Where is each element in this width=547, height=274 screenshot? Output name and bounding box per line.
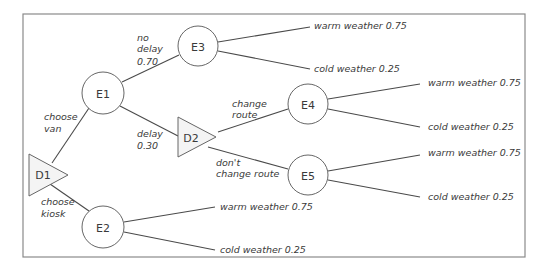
outcome-e4-cold: cold weather 0.25 xyxy=(428,121,514,132)
edge-label-line: change route xyxy=(216,168,279,179)
node-label: E2 xyxy=(96,222,110,235)
node-label: E3 xyxy=(191,41,205,54)
outcome-e4-warm: warm weather 0.75 xyxy=(428,77,521,88)
edge-label-line: van xyxy=(44,123,61,134)
edge-label-line: no xyxy=(137,32,149,43)
outcome-e2-warm: warm weather 0.75 xyxy=(220,201,313,212)
outcome-e3-warm: warm weather 0.75 xyxy=(314,20,407,31)
chance-node-e4: E4 xyxy=(288,84,328,124)
node-label: D2 xyxy=(183,132,198,145)
edge-label-line: don't xyxy=(216,157,241,168)
chance-node-e2: E2 xyxy=(82,206,124,248)
chance-node-e5: E5 xyxy=(288,155,328,195)
chance-node-e3: E3 xyxy=(178,26,218,66)
outcome-e3-cold: cold weather 0.25 xyxy=(314,63,400,74)
edge-label-line: route xyxy=(232,109,257,120)
edge-label-line: kiosk xyxy=(41,208,66,219)
edge-label-line: delay xyxy=(137,128,163,139)
chance-node-e1: E1 xyxy=(82,72,124,114)
node-label: E5 xyxy=(301,170,315,183)
outcome-e2-cold: cold weather 0.25 xyxy=(220,244,306,255)
edge-label-line: 0.30 xyxy=(137,140,158,151)
edge-label-line: choose xyxy=(44,111,78,122)
decision-tree-diagram: D1 D2 E1 E2 E3 E4 E5 choose van choose k… xyxy=(0,0,547,274)
edge-label-line: 0.70 xyxy=(137,56,158,67)
outcome-e5-warm: warm weather 0.75 xyxy=(428,147,521,158)
edge-label-line: delay xyxy=(137,43,163,54)
edge-label-line: choose xyxy=(41,196,75,207)
node-label: E4 xyxy=(301,99,315,112)
node-label: D1 xyxy=(35,169,50,182)
edge-label-line: change xyxy=(232,98,267,109)
outcome-e5-cold: cold weather 0.25 xyxy=(428,191,514,202)
node-label: E1 xyxy=(96,88,110,101)
